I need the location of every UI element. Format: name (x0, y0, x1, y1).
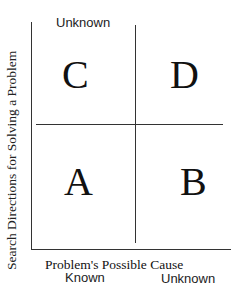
horizontal-divider (36, 124, 223, 125)
quadrant-b: B (180, 162, 207, 202)
y-axis-label: Search Directions for Solving a Problem (4, 20, 20, 270)
quadrant-a: A (64, 162, 93, 202)
x-axis-line (31, 249, 231, 250)
y-axis-line (31, 22, 32, 250)
x-left-label: Known (65, 270, 105, 285)
vertical-divider (135, 25, 136, 243)
quadrant-c: C (62, 55, 89, 95)
quadrant-d: D (170, 55, 199, 95)
x-right-label: Unknown (161, 271, 215, 286)
y-top-label: Unknown (56, 15, 110, 30)
